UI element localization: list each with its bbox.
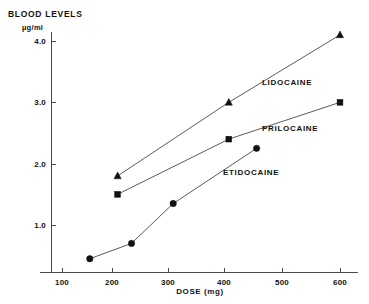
x-tick-label-500: 500 <box>275 278 289 287</box>
x-tick-label-100: 100 <box>55 278 69 287</box>
data-point-etidocaine <box>170 200 176 206</box>
data-point-lidocaine <box>225 98 232 105</box>
series-line-lidocaine <box>118 35 340 176</box>
data-point-etidocaine <box>128 240 134 246</box>
series-markers-etidocaine <box>87 145 260 262</box>
data-point-etidocaine <box>253 145 259 151</box>
chart-figure: BLOOD LEVELS µg/ml 4.0 3.0 2.0 1.0 100 2… <box>0 0 369 304</box>
line-chart-canvas: BLOOD LEVELS µg/ml 4.0 3.0 2.0 1.0 100 2… <box>0 0 369 304</box>
series-annotation-prilocaine: PRILOCAINE <box>262 124 318 133</box>
x-tick-label-400: 400 <box>217 278 231 287</box>
chart-title: BLOOD LEVELS <box>8 9 83 19</box>
data-point-lidocaine <box>114 172 121 179</box>
y-tick-label-2: 2.0 <box>34 160 46 169</box>
y-tick-label-1: 1.0 <box>34 221 46 230</box>
data-point-prilocaine <box>226 136 232 142</box>
x-axis-title: DOSE (mg) <box>176 287 224 296</box>
series-line-prilocaine <box>118 102 340 194</box>
y-tick-label-3: 3.0 <box>34 98 46 107</box>
data-point-prilocaine <box>115 191 121 197</box>
data-point-lidocaine <box>336 31 343 38</box>
series-annotation-lidocaine: LIDOCAINE <box>262 78 312 87</box>
y-tick-label-4: 4.0 <box>34 37 46 46</box>
data-point-prilocaine <box>337 99 343 105</box>
series-annotation-etidocaine: ETIDOCAINE <box>223 168 279 177</box>
series-markers-prilocaine <box>115 99 343 197</box>
x-tick-label-200: 200 <box>105 278 119 287</box>
y-axis-unit-label: µg/ml <box>22 23 43 32</box>
x-tick-label-600: 600 <box>333 278 347 287</box>
x-tick-label-300: 300 <box>161 278 175 287</box>
data-point-etidocaine <box>87 256 93 262</box>
